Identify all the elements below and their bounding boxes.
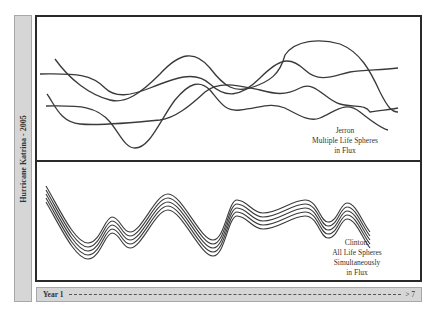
- panel-divider: [37, 160, 420, 162]
- bottom-caption-line-3: Simultaneously: [322, 258, 392, 268]
- timeline-start-label: Year 1: [43, 290, 63, 299]
- timeline-bar: Year 1 > 7: [36, 287, 422, 302]
- timeline-dashed-line: [69, 294, 401, 295]
- bottom-panel-caption: Clinton: All Life Spheres Simultaneously…: [322, 238, 392, 278]
- timeline-end-label: > 7: [405, 290, 415, 299]
- bottom-caption-line-1: Clinton:: [322, 238, 392, 248]
- top-caption-line-3: in Flux: [290, 146, 400, 156]
- bottom-caption-line-2: All Life Spheres: [322, 248, 392, 258]
- top-caption-line-2: Multiple Life Spheres: [290, 136, 400, 146]
- top-caption-line-1: Jerron: [290, 126, 400, 136]
- bottom-caption-line-4: in Flux: [322, 268, 392, 278]
- top-panel-caption: Jerron Multiple Life Spheres in Flux: [290, 126, 400, 156]
